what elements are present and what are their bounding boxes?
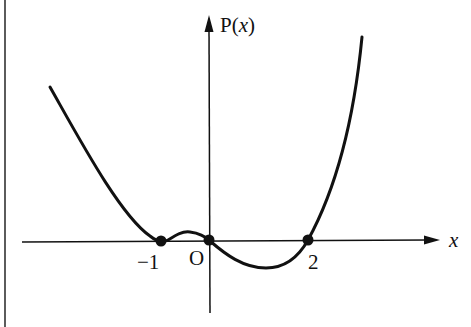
y-axis: P(x) <box>205 13 256 313</box>
x-axis: x <box>22 228 459 252</box>
polynomial-graph-figure: x P(x) −1 O 2 <box>0 0 471 327</box>
y-axis-arrow-icon <box>205 15 214 32</box>
x-axis-arrow-icon <box>424 236 440 245</box>
polynomial-curve <box>50 37 362 268</box>
root-point-2 <box>303 235 314 246</box>
x-axis-label: x <box>448 228 459 252</box>
root-point-origin <box>204 235 215 246</box>
root-point-neg1 <box>156 236 167 247</box>
y-axis-label: P(x) <box>220 13 255 37</box>
tick-label-neg1: −1 <box>137 250 159 274</box>
origin-label: O <box>189 246 204 270</box>
tick-label-2: 2 <box>308 250 319 274</box>
